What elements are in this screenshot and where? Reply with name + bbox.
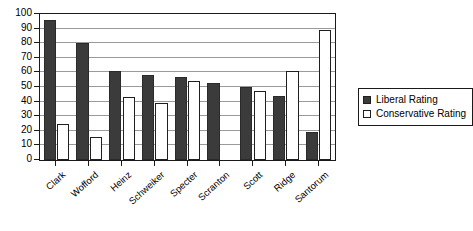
bar-wofford-liberal-rating (76, 43, 88, 160)
x-axis-label-wofford: Wofford (69, 169, 101, 199)
y-tick-label-20: 20 (21, 125, 32, 135)
x-axis-label-santorum: Santorum (292, 169, 330, 205)
x-axis-label-ridge: Ridge (271, 169, 297, 194)
x-tick-mark-specter (187, 161, 188, 166)
plot-area (39, 13, 336, 161)
bar-ridge-liberal-rating (273, 96, 285, 160)
legend-item-conservative: Conservative Rating (363, 107, 466, 121)
bar-clark-conservative-rating (57, 124, 69, 161)
chart-legend: Liberal Rating Conservative Rating (358, 88, 473, 126)
x-axis-label-schweiker: Schweiker (126, 169, 166, 207)
x-tick-mark-heinz (121, 161, 122, 166)
x-tick-mark-wofford (88, 161, 89, 166)
x-tick-mark-clark (55, 161, 56, 166)
bar-santorum-liberal-rating (306, 132, 318, 160)
bar-ridge-conservative-rating (286, 71, 298, 160)
bar-heinz-conservative-rating (123, 97, 135, 160)
legend-item-liberal: Liberal Rating (363, 93, 466, 107)
y-tick-label-70: 70 (21, 52, 32, 62)
x-axis: ClarkWoffordHeinzSchweikerSpecterScranto… (39, 161, 336, 231)
y-tick-label-30: 30 (21, 110, 32, 120)
y-axis: 1009080706050403020100 (0, 0, 39, 175)
x-tick-mark-ridge (285, 161, 286, 166)
bar-scranton-liberal-rating (207, 83, 219, 160)
x-axis-label-clark: Clark (44, 169, 68, 192)
bar-clark-liberal-rating (44, 20, 56, 160)
bar-specter-liberal-rating (175, 77, 187, 160)
y-tick-label-40: 40 (21, 96, 32, 106)
y-tick-label-100: 100 (15, 8, 32, 18)
bar-heinz-liberal-rating (109, 71, 121, 160)
bar-specter-conservative-rating (188, 81, 200, 160)
x-axis-label-scranton: Scranton (196, 169, 232, 203)
bar-scott-liberal-rating (240, 87, 252, 160)
bar-schweiker-liberal-rating (142, 75, 154, 160)
x-axis-label-scott: Scott (241, 169, 264, 192)
x-tick-mark-santorum (318, 161, 319, 166)
bar-santorum-conservative-rating (319, 30, 331, 160)
y-tick-label-50: 50 (21, 81, 32, 91)
legend-swatch-icon-liberal (363, 96, 371, 104)
bar-scott-conservative-rating (254, 91, 266, 160)
legend-label-conservative: Conservative Rating (376, 109, 466, 119)
bar-wofford-conservative-rating (90, 137, 102, 160)
x-axis-label-specter: Specter (167, 169, 199, 199)
legend-swatch-icon-conservative (363, 110, 371, 118)
y-tick-label-10: 10 (21, 139, 32, 149)
x-tick-mark-schweiker (154, 161, 155, 166)
y-tick-label-60: 60 (21, 66, 32, 76)
y-tick-label-80: 80 (21, 37, 32, 47)
bars-layer (40, 14, 335, 160)
x-tick-mark-scranton (219, 161, 220, 166)
legend-label-liberal: Liberal Rating (376, 95, 438, 105)
y-tick-label-0: 0 (26, 154, 32, 164)
x-axis-label-heinz: Heinz (108, 169, 133, 193)
bar-schweiker-conservative-rating (155, 103, 167, 160)
x-tick-mark-scott (252, 161, 253, 166)
y-tick-label-90: 90 (21, 23, 32, 33)
